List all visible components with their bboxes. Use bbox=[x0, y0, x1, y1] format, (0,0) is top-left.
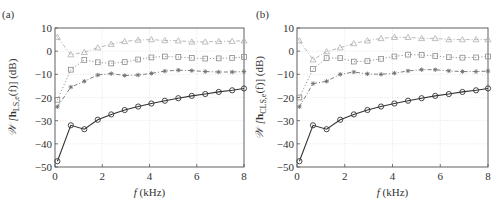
chart-panel-b: (b)02468100−10−20−30−40−50f (kHz)𝒲 [hCLS… bbox=[253, 8, 491, 199]
star-marker bbox=[311, 81, 315, 85]
square-marker bbox=[311, 67, 316, 72]
y-tick-label: −20 bbox=[277, 92, 295, 104]
star-marker bbox=[176, 68, 180, 72]
star-marker bbox=[230, 70, 234, 74]
y-tick-label: −50 bbox=[35, 161, 53, 173]
star-marker bbox=[419, 68, 423, 72]
star-marker bbox=[190, 68, 194, 72]
y-tick-label: −50 bbox=[277, 161, 295, 173]
star-marker bbox=[82, 79, 86, 83]
x-axis-label: f (kHz) bbox=[134, 186, 166, 199]
x-tick-label: 0 bbox=[52, 170, 58, 182]
x-tick-label: 0 bbox=[294, 170, 300, 182]
star-marker bbox=[352, 70, 356, 74]
x-tick-label: 4 bbox=[147, 170, 153, 182]
panel-label: (a) bbox=[2, 8, 15, 21]
star-marker bbox=[338, 72, 342, 76]
y-tick-label: 10 bbox=[41, 22, 53, 34]
series-square bbox=[297, 52, 490, 100]
square-marker bbox=[351, 59, 356, 64]
triangle-marker bbox=[378, 35, 384, 40]
star-marker bbox=[203, 69, 207, 73]
x-tick-label: 6 bbox=[194, 170, 200, 182]
star-marker bbox=[474, 69, 478, 73]
star-marker bbox=[297, 105, 301, 109]
y-tick-label: 10 bbox=[283, 22, 295, 34]
series-triangle bbox=[296, 34, 491, 62]
triangle-marker bbox=[122, 38, 128, 43]
series-star bbox=[297, 68, 490, 109]
x-tick-label: 8 bbox=[241, 170, 247, 182]
y-axis: 100−10−20−30−40−50 bbox=[277, 22, 300, 173]
star-marker bbox=[163, 69, 167, 73]
circle-marker bbox=[55, 159, 60, 164]
x-tick-label: 4 bbox=[390, 170, 396, 182]
star-marker bbox=[392, 71, 396, 75]
chart-panel-a: (a)02468100−10−20−30−40−50f (kHz)𝒲 [hLS,… bbox=[2, 8, 247, 199]
square-marker bbox=[55, 97, 60, 102]
star-marker bbox=[460, 69, 464, 73]
y-tick-label: −10 bbox=[277, 68, 295, 80]
y-tick-label: −30 bbox=[35, 115, 53, 127]
star-marker bbox=[217, 70, 221, 74]
y-tick-label: −40 bbox=[277, 138, 295, 150]
star-marker bbox=[324, 79, 328, 83]
star-marker bbox=[136, 73, 140, 77]
star-marker bbox=[109, 71, 113, 75]
circle-marker bbox=[297, 159, 302, 164]
star-marker bbox=[69, 85, 73, 89]
series-circle bbox=[297, 86, 491, 164]
square-marker bbox=[109, 61, 114, 66]
chart-canvas: (a)02468100−10−20−30−40−50f (kHz)𝒲 [hLS,… bbox=[0, 0, 503, 206]
star-marker bbox=[433, 68, 437, 72]
x-tick-label: 2 bbox=[100, 170, 106, 182]
star-marker bbox=[96, 73, 100, 77]
y-tick-label: 0 bbox=[47, 45, 53, 57]
star-marker bbox=[447, 69, 451, 73]
x-tick-label: 2 bbox=[342, 170, 348, 182]
star-marker bbox=[486, 69, 490, 73]
y-tick-label: −20 bbox=[35, 92, 53, 104]
grid bbox=[55, 28, 244, 167]
series-triangle bbox=[54, 34, 247, 57]
y-tick-label: 0 bbox=[289, 45, 295, 57]
star-marker bbox=[149, 71, 153, 75]
star-marker bbox=[55, 105, 59, 109]
triangle-marker bbox=[148, 37, 154, 42]
grid bbox=[297, 28, 488, 167]
y-axis: 100−10−20−30−40−50 bbox=[35, 22, 58, 173]
panel-label: (b) bbox=[256, 8, 269, 21]
y-tick-label: −30 bbox=[277, 115, 295, 127]
star-marker bbox=[365, 72, 369, 76]
star-marker bbox=[379, 72, 383, 76]
square-marker bbox=[230, 55, 235, 60]
x-axis-label: f (kHz) bbox=[377, 186, 409, 199]
x-tick-label: 8 bbox=[485, 170, 491, 182]
y-tick-label: −10 bbox=[35, 68, 53, 80]
star-marker bbox=[406, 69, 410, 73]
star-marker bbox=[242, 69, 246, 73]
y-axis-label: 𝒲 [hLS,e(f)] (dB) bbox=[6, 58, 21, 136]
series-square bbox=[55, 54, 246, 102]
y-tick-label: −40 bbox=[35, 138, 53, 150]
star-marker bbox=[122, 73, 126, 77]
y-axis-label: 𝒲 [hCLS,e(f)] (dB) bbox=[253, 56, 268, 139]
x-tick-label: 6 bbox=[438, 170, 444, 182]
figure: (a)02468100−10−20−30−40−50f (kHz)𝒲 [hLS,… bbox=[0, 0, 503, 206]
